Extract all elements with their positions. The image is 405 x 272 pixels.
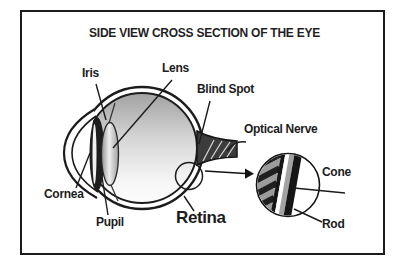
magnify-arrow bbox=[205, 169, 254, 179]
blind-spot-label: Blind Spot bbox=[197, 83, 254, 96]
lens-label: Lens bbox=[162, 62, 189, 75]
eye-diagram-figure: SIDE VIEW CROSS SECTION OF THE EYE bbox=[0, 0, 405, 272]
retina-layers bbox=[247, 138, 304, 234]
iris-label: Iris bbox=[82, 67, 99, 80]
eyeball bbox=[63, 87, 203, 209]
pupil-label: Pupil bbox=[96, 216, 124, 229]
rod-label: Rod bbox=[322, 218, 344, 231]
magnify-arrowhead-icon bbox=[245, 169, 254, 179]
cornea-label: Cornea bbox=[44, 188, 84, 201]
rod-cell bbox=[247, 210, 273, 228]
optic-nerve bbox=[197, 131, 237, 165]
optical-nerve-label: Optical Nerve bbox=[244, 123, 317, 136]
eye-diagram-drawing bbox=[0, 0, 405, 272]
retina-inset bbox=[247, 138, 320, 234]
pupil-slit bbox=[93, 124, 97, 184]
magnify-arrow-shaft bbox=[205, 171, 245, 174]
retina-label: Retina bbox=[176, 209, 226, 228]
cone-label: Cone bbox=[322, 166, 351, 179]
lens-shape bbox=[102, 123, 119, 186]
